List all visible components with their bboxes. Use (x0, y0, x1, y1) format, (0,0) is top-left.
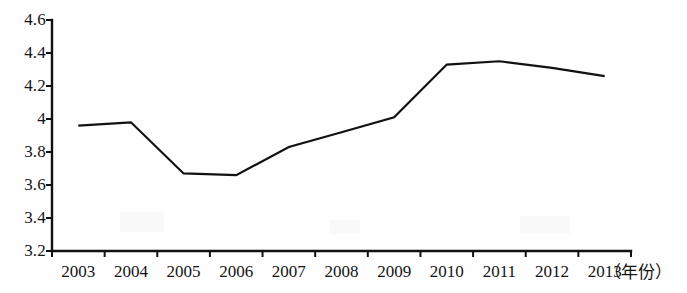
x-axis-tick-label: 2010 (430, 262, 464, 281)
y-axis-tick-label: 4.6 (4, 11, 46, 28)
line-chart: 3.23.43.63.844.24.44.6 20032004200520062… (0, 0, 687, 293)
y-axis-tick-label: 4 (4, 110, 46, 127)
x-axis-tick-labels: 2003200420052006200720082009201020112012… (0, 262, 687, 290)
chart-axes (52, 20, 631, 251)
y-axis-tick-label: 3.8 (4, 143, 46, 160)
y-axis-tick-label: 4.2 (4, 77, 46, 94)
y-axis-tick-label: 3.6 (4, 176, 46, 193)
x-axis-tick-label: 2012 (535, 262, 569, 281)
x-axis-tick-label: 2011 (483, 262, 516, 281)
x-axis-tick-label: 2003 (61, 262, 95, 281)
y-axis-tick-label: 4.4 (4, 44, 46, 61)
data-line (78, 61, 604, 175)
x-axis-tick-label: 2004 (114, 262, 148, 281)
y-axis-tick-labels: 3.23.43.63.844.24.44.6 (0, 0, 46, 293)
x-axis-tick-label: 2008 (325, 262, 359, 281)
plot-area (0, 0, 687, 293)
x-axis-unit-label: （年份） (604, 263, 672, 282)
y-axis-tick-label: 3.2 (4, 242, 46, 259)
x-axis-tick-label: 2009 (377, 262, 411, 281)
x-axis-tick-label: 2006 (219, 262, 253, 281)
x-axis-tick-label: 2007 (272, 262, 306, 281)
data-series-group (78, 61, 604, 175)
x-axis-tick-label: 2005 (167, 262, 201, 281)
y-axis-tick-label: 3.4 (4, 209, 46, 226)
